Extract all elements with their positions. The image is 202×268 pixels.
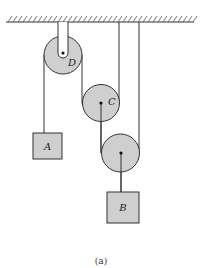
hatch-mark (163, 16, 167, 22)
hatch-mark (8, 16, 12, 22)
hatch-mark (183, 16, 187, 22)
hatch-mark (28, 16, 32, 22)
hatch-mark (143, 16, 147, 22)
block-a: A (33, 133, 62, 159)
hatch-mark (153, 16, 157, 22)
hatch-mark (93, 16, 97, 22)
pulley-d-label: D (67, 57, 76, 68)
hatch-mark (118, 16, 122, 22)
hatch-mark (63, 16, 67, 22)
hatch-mark (48, 16, 52, 22)
hatch-mark (158, 16, 162, 22)
hatch-mark (18, 16, 22, 22)
hatch-mark (33, 16, 37, 22)
hatch-mark (173, 16, 177, 22)
pulley-system-diagram: D C A B (a) (0, 0, 202, 268)
hatch-mark (133, 16, 137, 22)
hatch-mark (178, 16, 182, 22)
hatch-mark (168, 16, 172, 22)
hatch-mark (23, 16, 27, 22)
hatch-mark (108, 16, 112, 22)
pulley-lower-axle (119, 151, 122, 154)
hatch-mark (88, 16, 92, 22)
hatch-mark (128, 16, 132, 22)
block-b: B (107, 192, 139, 223)
hatch-mark (123, 16, 127, 22)
ceiling (6, 16, 197, 22)
hatch-mark (43, 16, 47, 22)
hatch-mark (53, 16, 57, 22)
hatch-mark (68, 16, 72, 22)
block-a-label: A (43, 141, 51, 152)
ceiling-hatch (8, 16, 197, 22)
pulley-c-axle (99, 101, 102, 104)
pulley-lower (102, 134, 140, 192)
hatch-mark (138, 16, 142, 22)
hatch-mark (83, 16, 87, 22)
hatch-mark (188, 16, 192, 22)
hatch-mark (148, 16, 152, 22)
pulley-d: D (44, 22, 82, 74)
hatch-mark (38, 16, 42, 22)
hatch-mark (113, 16, 117, 22)
block-b-label: B (118, 202, 126, 213)
hatch-mark (58, 16, 62, 22)
hatch-mark (98, 16, 102, 22)
hatch-mark (103, 16, 107, 22)
figure-caption: (a) (95, 256, 107, 266)
pulley-c-label: C (108, 96, 116, 107)
hatch-mark (193, 16, 197, 22)
hatch-mark (13, 16, 17, 22)
hatch-mark (78, 16, 82, 22)
pulley-d-axle (61, 51, 64, 54)
hatch-mark (73, 16, 77, 22)
